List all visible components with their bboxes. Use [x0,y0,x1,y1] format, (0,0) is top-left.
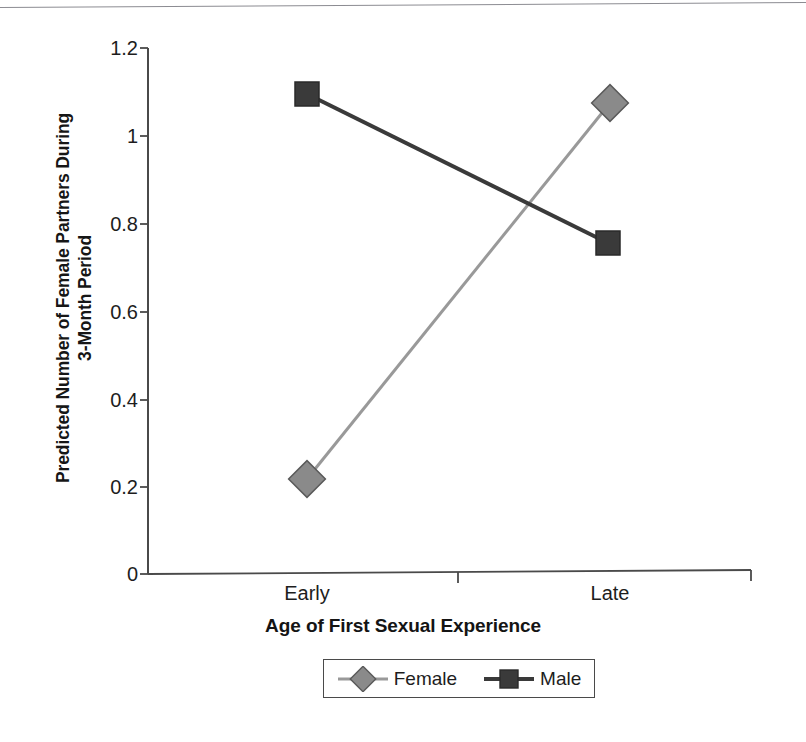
legend-label-male: Male [540,668,581,690]
x-axis-title: Age of First Sexual Experience [0,615,806,637]
line-chart-figure: Predicted Number of Female Partners Duri… [0,0,806,742]
x-tick-label-early: Early [284,582,330,605]
legend-label-female: Female [394,668,457,690]
legend-female-marker-icon [337,666,389,692]
female-data-point-early [289,461,326,498]
male-data-point-early [295,82,319,106]
female-data-point-late [592,85,629,122]
x-tick-label-late: Late [591,582,630,605]
male-series-line [307,94,608,243]
legend-male-marker-icon [483,666,535,692]
legend-entry-female: Female [337,666,457,692]
female-series-line [307,103,610,479]
figure-page: Predicted Number of Female Partners Duri… [0,0,806,742]
x-axis-line [148,570,751,574]
chart-legend: Female Male [323,659,595,698]
male-data-point-late [596,231,620,255]
legend-entry-male: Male [483,666,581,692]
y-tick-marks [140,48,148,574]
